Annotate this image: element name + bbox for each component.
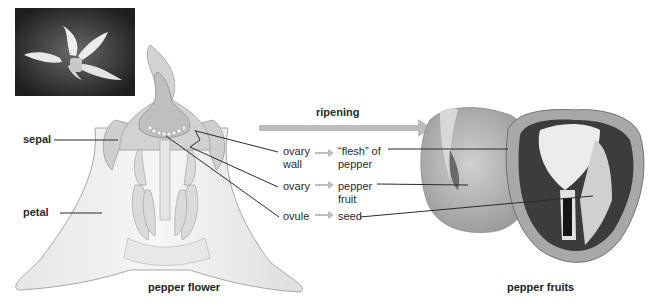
- ripening-arrow: [259, 119, 432, 137]
- diagram-artwork: [0, 0, 659, 303]
- pepper-flower-caption: pepper flower: [148, 281, 220, 293]
- flower-photo: [15, 8, 135, 96]
- pepper-fruits-caption: pepper fruits: [507, 281, 574, 293]
- pepper-fruit-line1: pepper: [338, 180, 372, 193]
- flesh-line2: pepper: [338, 158, 372, 171]
- seed-label: seed: [338, 210, 362, 223]
- mapping-arrows: [315, 149, 334, 219]
- petal-label: petal: [23, 206, 49, 219]
- ovary-wall-line2: wall: [283, 158, 302, 171]
- sepal-label: sepal: [23, 133, 51, 146]
- ovary-label: ovary: [283, 180, 310, 193]
- ovule-label: ovule: [283, 210, 309, 223]
- pepper-fruit-line2: fruit: [338, 193, 356, 206]
- ripening-label: ripening: [316, 106, 359, 119]
- flesh-line1: “flesh” of: [338, 145, 381, 158]
- ovary-wall-line1: ovary: [283, 145, 310, 158]
